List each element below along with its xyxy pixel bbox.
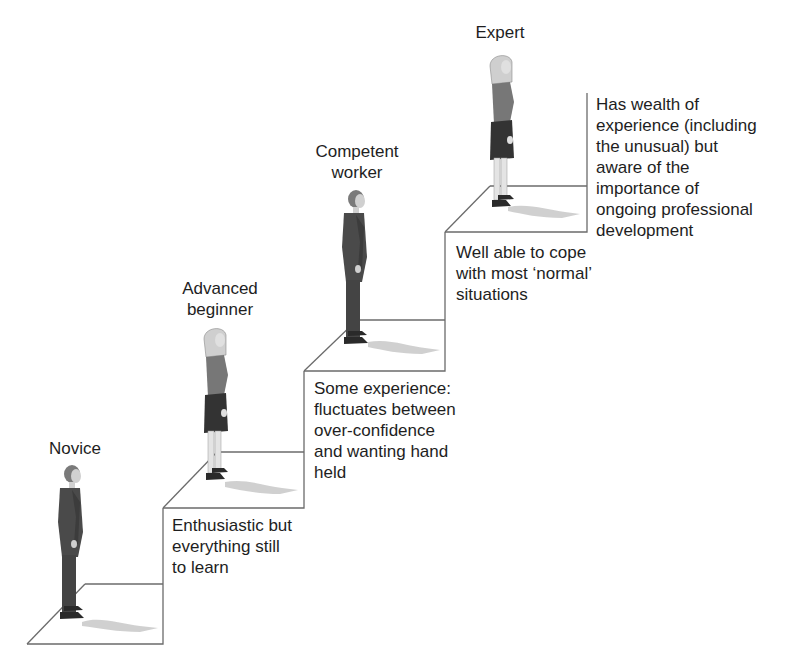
stage-description-novice: Enthusiastic but everything still to lea… — [172, 515, 292, 578]
stage-label-novice: Novice — [40, 438, 110, 459]
advanced-beginner-figure-icon — [196, 325, 236, 485]
stage-label-competent-worker: Competent worker — [302, 141, 412, 183]
staircase-diagram: Novice Advanced beginner Competent worke… — [0, 0, 791, 666]
stage-description-competent-worker: Well able to cope with most ‘normal’ sit… — [456, 242, 592, 305]
novice-shadow — [82, 620, 158, 632]
competent-worker-figure-icon — [336, 187, 376, 352]
competent-shadow — [368, 341, 440, 354]
stage-description-expert: Has wealth of experience (including the … — [596, 94, 757, 241]
stage-label-expert: Expert — [460, 22, 540, 43]
stage-label-advanced-beginner: Advanced beginner — [160, 278, 280, 320]
expert-figure-icon — [482, 52, 522, 212]
stage-description-advanced-beginner: Some experience: fluctuates between over… — [314, 378, 456, 483]
novice-figure-icon — [52, 462, 92, 627]
